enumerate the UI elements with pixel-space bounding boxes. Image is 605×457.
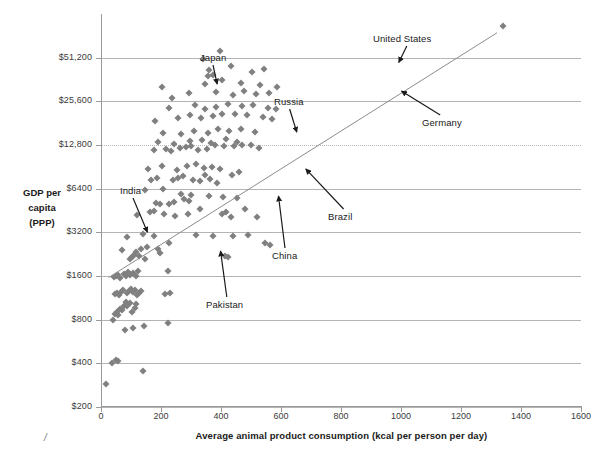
annotation-arrows xyxy=(0,0,605,457)
annotation-arrow-brazil xyxy=(306,169,344,209)
annotation-label-pakistan: Pakistan xyxy=(206,299,243,310)
annotation-arrow-united-states xyxy=(399,46,407,62)
annotation-label-united-states: United States xyxy=(373,33,431,44)
annotation-arrow-china xyxy=(278,196,285,248)
annotation-label-germany: Germany xyxy=(422,117,462,128)
annotation-arrow-pakistan xyxy=(221,251,227,297)
annotation-label-india: India xyxy=(120,185,141,196)
annotation-label-china: China xyxy=(272,250,297,261)
annotation-arrow-japan xyxy=(213,65,217,84)
scatter-chart: $200$400$800$1600$3200$6400$12,800$25,60… xyxy=(0,0,605,457)
annotation-arrow-germany xyxy=(401,91,440,115)
annotation-arrow-russia xyxy=(290,109,297,132)
annotation-label-russia: Russia xyxy=(274,96,304,107)
stray-pencil-mark: / xyxy=(44,432,47,443)
annotation-label-brazil: Brazil xyxy=(328,211,352,222)
annotation-arrow-india xyxy=(133,198,147,232)
annotation-label-japan: Japan xyxy=(200,52,226,63)
